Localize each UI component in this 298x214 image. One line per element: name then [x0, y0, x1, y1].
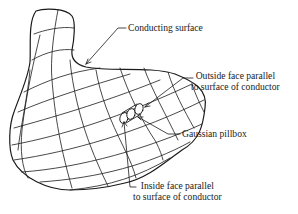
label-outside-face-line1: Outside face parallel [191, 71, 280, 82]
label-inside-face-line1: Inside face parallel [133, 181, 222, 192]
label-outside-face-line2: to surface of conductor [191, 82, 280, 93]
leader-conducting-surface [86, 28, 126, 64]
leader-outside-face [145, 78, 193, 107]
surface-grid [12, 10, 204, 190]
label-inside-face: Inside face parallel to surface of condu… [133, 181, 222, 202]
gaussian-pillbox [118, 102, 144, 124]
label-inside-face-line2: to surface of conductor [133, 192, 222, 203]
label-gaussian-pillbox: Gaussian pillbox [182, 129, 247, 140]
label-outside-face: Outside face parallel to surface of cond… [191, 71, 280, 92]
label-conducting-surface: Conducting surface [128, 23, 203, 34]
